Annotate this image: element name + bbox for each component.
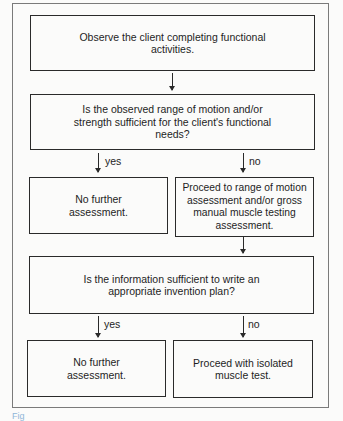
- question-1-text: Is the observed range of motion and/or s…: [68, 103, 278, 141]
- q1-no-label: no: [249, 155, 261, 167]
- q2-yes-outcome-text: No further assessment.: [62, 356, 132, 381]
- q2-yes-outcome-box: No further assessment.: [27, 340, 166, 397]
- arrow-q1-yes: [98, 153, 99, 172]
- figure-caption: Fig: [12, 411, 25, 421]
- arrow-to-q2: [243, 237, 244, 253]
- arrow-observe-to-q1: [172, 73, 173, 90]
- q1-no-outcome-box: Proceed to range of motion assessment an…: [175, 177, 314, 237]
- q2-no-outcome-text: Proceed with isolated muscle test.: [188, 357, 298, 382]
- arrow-q1-no: [243, 153, 244, 172]
- q1-no-outcome-text: Proceed to range of motion assessment an…: [179, 182, 310, 232]
- q2-no-outcome-box: Proceed with isolated muscle test.: [173, 340, 313, 398]
- q2-no-label: no: [248, 318, 260, 330]
- q1-yes-label: yes: [105, 155, 121, 167]
- q1-yes-outcome-text: No further assessment.: [64, 193, 134, 218]
- observe-box: Observe the client completing functional…: [30, 15, 315, 71]
- question-2-text: Is the information sufficient to write a…: [82, 273, 262, 298]
- observe-text: Observe the client completing functional…: [73, 31, 273, 56]
- arrow-q2-yes: [98, 316, 99, 337]
- q1-yes-outcome-box: No further assessment.: [29, 177, 168, 234]
- arrow-q2-no: [243, 316, 244, 337]
- q2-yes-label: yes: [104, 318, 120, 330]
- question-1-box: Is the observed range of motion and/or s…: [30, 94, 315, 150]
- question-2-box: Is the information sufficient to write a…: [29, 256, 314, 314]
